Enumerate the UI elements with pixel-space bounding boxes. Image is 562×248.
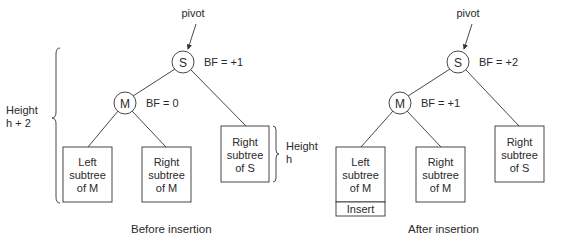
caption-after: After insertion xyxy=(408,223,479,235)
svg-text:of M: of M xyxy=(430,182,451,194)
insert-label: Insert xyxy=(347,203,375,215)
node-s: S xyxy=(447,51,469,73)
edge-s-m xyxy=(133,69,175,96)
avl-insertion-diagram: pivot S BF = +1 M BF = 0 Left subtree of… xyxy=(0,0,562,248)
edge-m-left-subtree xyxy=(361,111,393,147)
edge-s-m xyxy=(408,69,450,96)
pivot-arrow-icon xyxy=(464,24,472,49)
node-s-balance-factor: BF = +1 xyxy=(204,56,243,68)
diagram-after: pivot S BF = +2 M BF = +1 Left subtree o… xyxy=(336,7,544,235)
svg-text:subtree: subtree xyxy=(148,169,185,181)
node-s: S xyxy=(172,51,194,73)
node-s-letter: S xyxy=(454,56,462,70)
svg-text:Left: Left xyxy=(78,156,96,168)
node-s-balance-factor: BF = +2 xyxy=(479,56,518,68)
node-m-balance-factor: BF = +1 xyxy=(421,97,460,109)
height-outer-value: h + 2 xyxy=(6,117,31,129)
svg-text:subtree: subtree xyxy=(69,169,106,181)
svg-text:subtree: subtree xyxy=(342,169,379,181)
right-subtree-of-s: Right subtree of S xyxy=(221,126,269,182)
edge-m-left-subtree xyxy=(88,111,118,147)
edge-s-right-subtree xyxy=(466,70,519,126)
svg-text:Left: Left xyxy=(351,156,369,168)
caption-before: Before insertion xyxy=(131,223,212,235)
edge-m-right-subtree xyxy=(132,111,166,147)
svg-text:Right: Right xyxy=(232,136,258,148)
pivot-arrow-icon xyxy=(188,24,196,49)
svg-text:of M: of M xyxy=(77,182,98,194)
edge-s-right-subtree xyxy=(191,70,246,126)
right-subtree-of-m: Right subtree of M xyxy=(142,147,191,202)
svg-text:Right: Right xyxy=(507,136,533,148)
node-m: M xyxy=(114,92,136,114)
pivot-label: pivot xyxy=(181,7,204,19)
svg-text:subtree: subtree xyxy=(422,169,459,181)
svg-text:Right: Right xyxy=(154,156,180,168)
svg-text:subtree: subtree xyxy=(227,149,264,161)
pivot-label: pivot xyxy=(456,7,479,19)
left-subtree-of-m: Left subtree of M xyxy=(63,147,112,202)
node-m-letter: M xyxy=(395,97,405,111)
right-subtree-of-s: Right subtree of S xyxy=(495,126,544,182)
svg-text:of M: of M xyxy=(350,182,371,194)
node-m-letter: M xyxy=(120,97,130,111)
height-inner-brace-icon xyxy=(273,126,279,182)
svg-text:subtree: subtree xyxy=(501,149,538,161)
height-inner-value: h xyxy=(286,153,292,165)
edge-m-right-subtree xyxy=(407,111,441,147)
svg-text:of S: of S xyxy=(510,162,530,174)
node-m: M xyxy=(389,92,411,114)
height-outer-brace-icon xyxy=(52,48,60,203)
diagram-before: pivot S BF = +1 M BF = 0 Left subtree of… xyxy=(6,7,318,235)
insert-cell: Insert xyxy=(336,202,385,216)
svg-text:of S: of S xyxy=(235,162,255,174)
svg-text:Right: Right xyxy=(428,156,454,168)
svg-text:of M: of M xyxy=(156,182,177,194)
right-subtree-of-m: Right subtree of M xyxy=(416,147,465,202)
height-inner-label: Height xyxy=(286,140,318,152)
node-m-balance-factor: BF = 0 xyxy=(146,97,179,109)
left-subtree-of-m: Left subtree of M xyxy=(336,147,385,202)
node-s-letter: S xyxy=(179,56,187,70)
height-outer-label: Height xyxy=(6,104,38,116)
